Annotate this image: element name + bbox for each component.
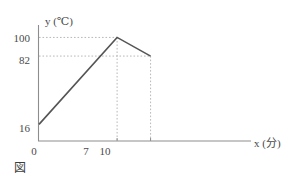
chart-plot-area — [0, 0, 297, 187]
x-tick-label-10: 10 — [93, 146, 117, 157]
axes — [38, 25, 251, 141]
x-axis-unit: (分) — [262, 137, 280, 149]
y-tick-label-16: 16 — [4, 123, 30, 134]
y-axis-unit: (℃) — [53, 15, 73, 27]
y-axis-title: y (℃) — [45, 16, 73, 27]
temperature-line-series — [39, 37, 151, 124]
origin-label: 0 — [22, 146, 46, 157]
guide-lines — [39, 37, 151, 140]
y-tick-label-82: 82 — [4, 55, 30, 66]
x-axis-title: x (分) — [254, 138, 281, 149]
figure-caption: 図 — [14, 162, 26, 174]
y-tick-label-100: 100 — [4, 33, 30, 44]
figure-container: y (℃) x (分) 100 82 16 0 7 10 図 — [0, 0, 297, 187]
